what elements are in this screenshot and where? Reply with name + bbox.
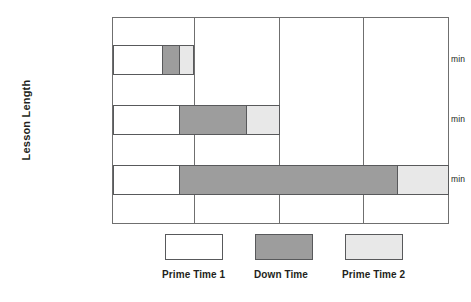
chart-legend: Prime Time 1 Down Time Prime Time 2 xyxy=(0,234,471,294)
bar-segment-prime-time-2 xyxy=(397,165,449,195)
plot-area xyxy=(112,17,449,224)
legend-label-down-time: Down Time xyxy=(252,269,310,280)
bar-segment-prime-time-1 xyxy=(113,45,163,75)
bar-segment-down-time xyxy=(179,165,398,195)
legend-item-prime-time-1: Prime Time 1 xyxy=(165,234,223,280)
bar-segment-down-time xyxy=(179,105,247,135)
y-axis-title: Lesson Length xyxy=(15,50,37,190)
bar-segment-down-time xyxy=(162,45,180,75)
white-swatch xyxy=(165,234,223,260)
bar-20min xyxy=(113,45,194,75)
stacked-bar-chart: Lesson Length 20 min 40 min 80 min xyxy=(0,0,471,302)
dark-gray-swatch xyxy=(255,234,313,260)
bar-segment-prime-time-1 xyxy=(113,165,180,195)
legend-item-down-time: Down Time xyxy=(255,234,313,280)
legend-label-prime-time-2: Prime Time 2 xyxy=(342,269,400,280)
bar-segment-prime-time-1 xyxy=(113,105,180,135)
bar-segment-prime-time-2 xyxy=(179,45,194,75)
bar-80min xyxy=(113,165,449,195)
legend-label-prime-time-1: Prime Time 1 xyxy=(162,269,220,280)
light-gray-swatch xyxy=(345,234,403,260)
bar-segment-prime-time-2 xyxy=(246,105,280,135)
bar-40min xyxy=(113,105,280,135)
legend-item-prime-time-2: Prime Time 2 xyxy=(345,234,403,280)
